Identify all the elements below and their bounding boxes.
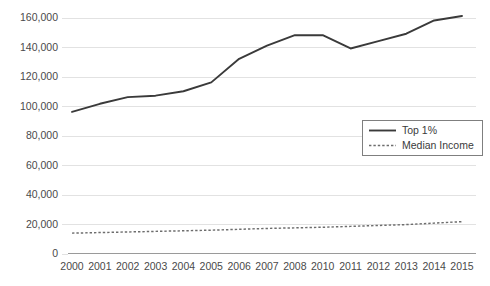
- x-tick-label-2010: 2010: [311, 260, 335, 272]
- y-tick-label-60000: 60,000: [26, 159, 58, 171]
- x-tick-label-2000: 2000: [60, 260, 84, 272]
- x-tick-label-2007: 2007: [255, 260, 279, 272]
- y-axis-tick-labels: 020,00040,00060,00080,000100,000120,0001…: [20, 11, 68, 259]
- y-tick-label-160000: 160,000: [20, 11, 58, 23]
- y-tick-label-140000: 140,000: [20, 41, 58, 53]
- x-tick-label-2013: 2013: [395, 260, 419, 272]
- series-line-top-1: [72, 16, 462, 112]
- x-tick-label-2008: 2008: [283, 260, 307, 272]
- x-tick-label-2001: 2001: [88, 260, 112, 272]
- x-tick-label-2005: 2005: [200, 260, 224, 272]
- y-tick-label-100000: 100,000: [20, 100, 58, 112]
- x-tick-label-2011: 2011: [339, 260, 362, 272]
- x-tick-label-2004: 2004: [172, 260, 196, 272]
- x-tick-label-2015: 2015: [450, 260, 474, 272]
- x-tick-label-2014: 2014: [422, 260, 446, 272]
- x-tick-label-2002: 2002: [116, 260, 140, 272]
- chart-legend: Top 1% Median Income: [363, 121, 483, 156]
- x-axis-tick-labels: 2000200120022003200420052006200720082010…: [60, 260, 474, 272]
- income-comparison-chart: 020,00040,00060,00080,000100,000120,0001…: [0, 0, 490, 286]
- legend-label-median-income: Median Income: [402, 139, 474, 151]
- y-tick-label-40000: 40,000: [26, 188, 58, 200]
- chart-canvas: 020,00040,00060,00080,000100,000120,0001…: [0, 0, 490, 286]
- x-tick-label-2006: 2006: [227, 260, 251, 272]
- series-line-median-income: [72, 222, 462, 234]
- y-tick-label-120000: 120,000: [20, 70, 58, 82]
- y-tick-label-80000: 80,000: [26, 129, 58, 141]
- x-tick-label-2012: 2012: [367, 260, 391, 272]
- x-tick-label-2003: 2003: [144, 260, 168, 272]
- y-tick-label-20000: 20,000: [26, 218, 58, 230]
- legend-label-top-1-percent: Top 1%: [402, 124, 437, 136]
- y-tick-label-0: 0: [52, 247, 58, 259]
